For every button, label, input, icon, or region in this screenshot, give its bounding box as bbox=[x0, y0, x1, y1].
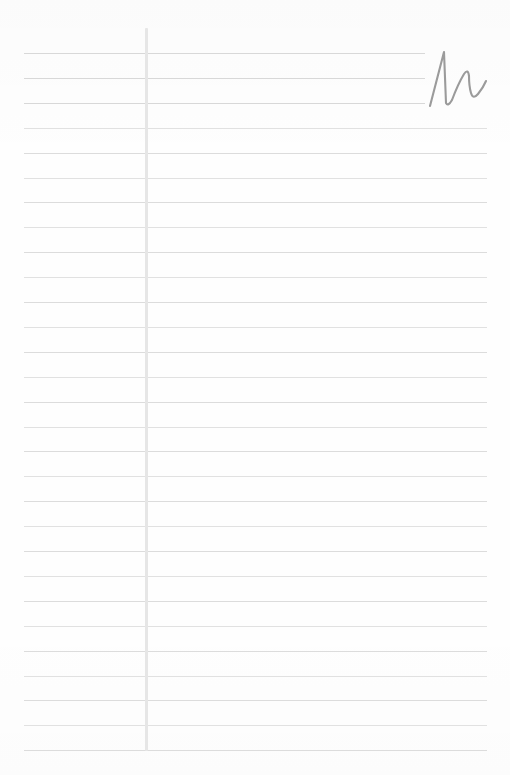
margin-rule-line bbox=[145, 28, 148, 751]
rule-line bbox=[24, 750, 487, 751]
page-body-text[interactable] bbox=[152, 40, 482, 750]
notebook-page bbox=[0, 0, 510, 775]
